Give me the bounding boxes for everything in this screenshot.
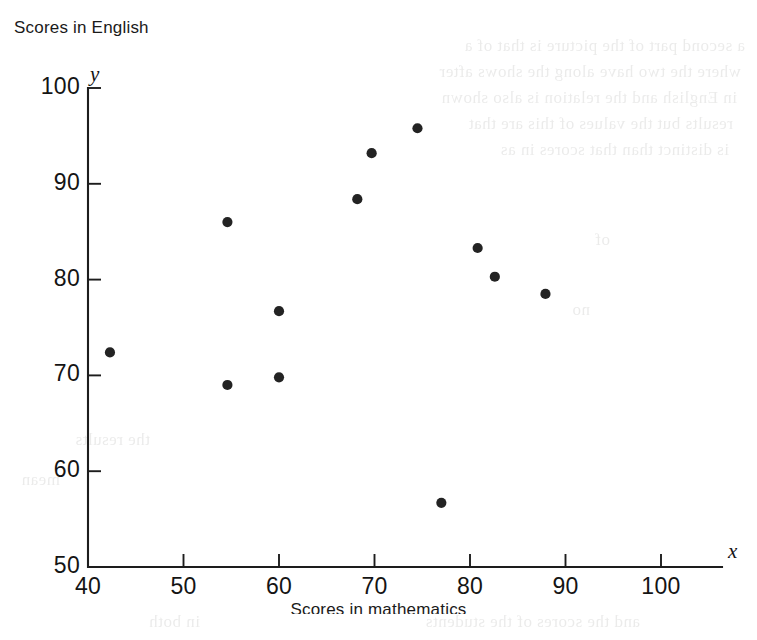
y-tick-label-60: 60	[54, 456, 80, 483]
data-point	[105, 347, 115, 357]
axes-group	[88, 88, 722, 567]
y-axis-variable-label: y	[90, 62, 99, 87]
x-tick-label-50: 50	[144, 573, 224, 600]
data-point	[352, 194, 362, 204]
y-tick-label-100: 100	[41, 73, 80, 100]
data-point	[473, 243, 483, 253]
x-axis-variable-label: x	[728, 539, 737, 564]
data-point	[274, 306, 284, 316]
data-point	[490, 272, 500, 282]
x-tick-label-40: 40	[48, 573, 128, 600]
data-points-group	[105, 123, 551, 508]
data-point	[222, 380, 232, 390]
data-point	[367, 148, 377, 158]
x-tick-label-90: 90	[526, 573, 606, 600]
data-point	[436, 498, 446, 508]
x-tick-label-60: 60	[239, 573, 319, 600]
y-tick-label-90: 90	[54, 169, 80, 196]
scatter-plot-figure: Scores in English 5060708090100405060708…	[0, 0, 757, 640]
x-tick-label-100: 100	[621, 573, 701, 600]
data-point	[540, 289, 550, 299]
y-tick-label-80: 80	[54, 265, 80, 292]
x-tick-label-80: 80	[430, 573, 510, 600]
data-point	[274, 372, 284, 382]
x-tick-label-70: 70	[335, 573, 415, 600]
plot-canvas	[0, 0, 757, 640]
axis-spine	[88, 88, 722, 567]
data-point	[412, 123, 422, 133]
data-point	[222, 217, 232, 227]
y-tick-label-70: 70	[54, 360, 80, 387]
tick-marks-group	[88, 88, 661, 567]
